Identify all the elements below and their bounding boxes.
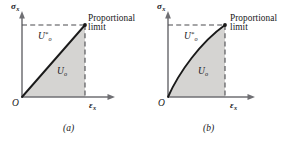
x-axis-label-b: εx [230, 101, 237, 110]
proportional-limit-point [83, 23, 87, 27]
complementary-energy-label-a: U*o [38, 32, 51, 42]
panel-caption-a: (a) [63, 124, 74, 134]
figure-panel-a: σx εx O U*o Uo Proportionallimit (a) [0, 0, 146, 143]
y-axis-arrowhead [19, 11, 25, 19]
origin-label-b: O [158, 99, 165, 109]
y-axis-label-a: σx [11, 2, 19, 11]
complementary-energy-label-b: U*o [184, 32, 197, 42]
proportional-limit-annotation-b: Proportionallimit [230, 14, 277, 33]
strain-energy-label-b: Uo [198, 67, 208, 77]
origin-label-a: O [12, 99, 19, 109]
y-axis-label-b: σx [157, 2, 165, 11]
proportional-limit-point [223, 23, 227, 27]
figure-panel-b: σx εx O U*o Uo Proportionallimit (b) [146, 0, 292, 143]
y-axis-arrowhead [165, 11, 171, 19]
x-axis-label-a: εx [89, 101, 96, 110]
proportional-limit-annotation-a: Proportionallimit [88, 14, 135, 33]
x-axis-arrowhead [108, 94, 116, 100]
x-axis-arrowhead [248, 94, 256, 100]
panel-caption-b: (b) [203, 124, 214, 134]
strain-energy-label-a: Uo [57, 67, 67, 77]
